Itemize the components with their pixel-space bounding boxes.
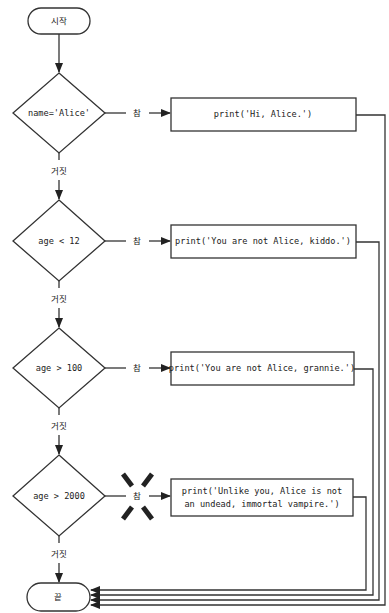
decision-condition: age < 12 xyxy=(38,236,79,246)
true-label: 참 xyxy=(133,363,141,373)
true-label: 참 xyxy=(133,108,141,118)
action-box-2: print('You are not Alice, kiddo.') xyxy=(171,225,356,258)
end-label: 끝 xyxy=(54,592,62,602)
false-label: 거짓 xyxy=(51,166,67,176)
action-text-line-1: print('Unlike you, Alice is not xyxy=(182,486,342,496)
action-text-line-2: an undead, immortal vampire.') xyxy=(184,499,339,509)
action-box-1: print('Hi, Alice.') xyxy=(171,98,356,131)
action-text: print('You are not Alice, grannie.') xyxy=(169,363,355,373)
false-label: 거짓 xyxy=(51,421,67,431)
decision-condition: age > 2000 xyxy=(33,491,85,501)
start-label: 시작 xyxy=(51,16,67,26)
end-node: 끝 xyxy=(27,583,90,611)
action-text: print('You are not Alice, kiddo.') xyxy=(175,236,351,246)
false-label: 거짓 xyxy=(51,294,67,304)
action-box-4: print('Unlike you, Alice is not an undea… xyxy=(171,479,353,516)
true-label: 참 xyxy=(133,236,141,246)
action-text: print('Hi, Alice.') xyxy=(214,109,312,119)
true-label: 참 xyxy=(133,491,141,501)
decision-condition: name='Alice' xyxy=(28,108,90,118)
false-label: 거짓 xyxy=(51,549,67,559)
action-box-3: print('You are not Alice, grannie.') xyxy=(169,352,355,385)
decision-condition: age > 100 xyxy=(36,363,83,373)
flowchart: 시작 name='Alice' 참 print('Hi, Alice.') 거짓… xyxy=(0,0,389,613)
start-node: 시작 xyxy=(28,8,90,34)
decision-age-lt-12: age < 12 xyxy=(13,200,105,281)
decision-age-gt-100: age > 100 xyxy=(13,328,105,408)
return-path-2 xyxy=(91,242,379,600)
decision-age-gt-2000: age > 2000 xyxy=(13,455,105,536)
decision-name-alice: name='Alice' xyxy=(13,73,105,153)
